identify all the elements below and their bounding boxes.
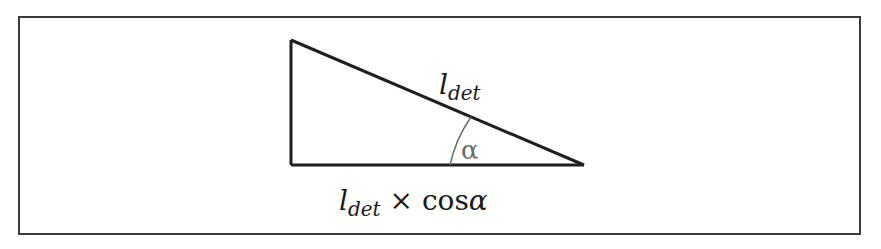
angle-label: α <box>461 135 479 165</box>
hypotenuse-label: ldet <box>439 68 481 105</box>
hypotenuse-side <box>291 40 584 165</box>
base-label: ldet × cosα <box>339 184 488 221</box>
